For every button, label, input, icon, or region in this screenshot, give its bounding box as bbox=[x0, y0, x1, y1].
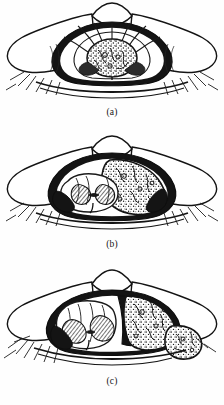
panel-b: (b) bbox=[0, 133, 224, 268]
panel-a: (a) bbox=[0, 0, 224, 135]
panel-a-drawing bbox=[6, 3, 218, 98]
panel-a-illustration bbox=[0, 0, 224, 110]
panel-c-drawing bbox=[4, 270, 217, 365]
panel-c: (c) bbox=[0, 266, 224, 405]
gray-commissure bbox=[86, 331, 95, 334]
panel-a-caption: (a) bbox=[0, 107, 224, 117]
panel-b-drawing bbox=[6, 136, 218, 229]
panel-c-illustration bbox=[0, 266, 224, 378]
figure-plate: (a) bbox=[0, 0, 224, 405]
panel-b-caption: (b) bbox=[0, 239, 224, 249]
vertebral-body-base-lower bbox=[40, 88, 184, 98]
panel-c-caption: (c) bbox=[0, 376, 224, 386]
panel-b-illustration bbox=[0, 133, 224, 241]
gray-commissure bbox=[89, 194, 99, 197]
